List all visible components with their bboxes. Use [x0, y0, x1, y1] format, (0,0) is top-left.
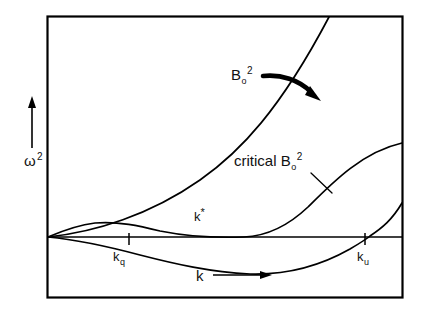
curve-unstable-branch — [48, 203, 402, 274]
b0-squared-superscript: 2 — [247, 65, 253, 76]
critical-b0-subscript: o — [291, 162, 296, 172]
x-axis-label-symbol: k — [196, 267, 204, 284]
critical-prefix: critical — [234, 152, 277, 169]
y-axis-label: ω2 — [24, 152, 43, 168]
critical-b0-superscript: 2 — [297, 151, 303, 162]
tick-label-kq-base: k — [113, 249, 120, 264]
dispersion-relation-figure: ω2 k kq ku k* Bo2 critical Bo2 — [0, 0, 422, 315]
annotation-b0-squared: Bo2 — [231, 66, 253, 86]
tick-label-ku: ku — [357, 250, 369, 267]
annotation-k-star: k* — [194, 207, 205, 223]
annotation-critical-b0-squared: critical Bo2 — [234, 152, 302, 172]
critical-b0-base: B — [281, 152, 291, 169]
tick-label-kq: kq — [113, 250, 125, 267]
x-axis-label: k — [196, 268, 204, 283]
b0-squared-subscript: o — [242, 76, 247, 86]
curve-critical-b0-squared — [48, 143, 402, 237]
k-star-superscript: * — [201, 206, 205, 218]
curve-b0-squared — [48, 17, 329, 237]
y-axis-label-exponent: 2 — [37, 151, 43, 162]
tick-label-kq-sub: q — [120, 257, 125, 267]
b0-squared-base: B — [231, 66, 241, 83]
plot-canvas — [0, 0, 422, 315]
tick-label-ku-base: k — [357, 249, 364, 264]
leader-line-icon — [311, 173, 332, 193]
y-axis-label-symbol: ω — [24, 152, 36, 169]
tick-label-ku-sub: u — [364, 257, 369, 267]
plot-frame — [48, 17, 403, 298]
curved-bold-arrow-icon — [263, 76, 321, 101]
up-arrow-icon — [28, 96, 36, 148]
